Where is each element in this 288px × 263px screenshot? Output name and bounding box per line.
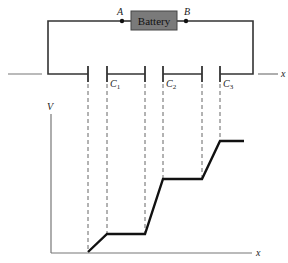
terminal-b-dot (184, 19, 188, 23)
terminal-b-label: B (184, 6, 190, 17)
guide-lines (88, 84, 220, 252)
potential-curve (88, 141, 244, 252)
c3-label: C3 (223, 78, 234, 91)
c2-label: C2 (166, 78, 177, 91)
left-wire (48, 21, 122, 74)
c1-label: C1 (110, 78, 121, 91)
y-axis-label: V (47, 101, 55, 112)
terminal-a-dot (120, 19, 124, 23)
battery-label: Battery (138, 15, 171, 27)
circuit-x-label: x (280, 68, 286, 79)
capacitor-potential-diagram: x Battery A B C1 C2 C3 V x (0, 0, 288, 263)
x-axis-label: x (255, 247, 261, 258)
graph: V x (47, 101, 261, 258)
terminal-a-label: A (116, 6, 124, 17)
circuit: x Battery A B C1 C2 C3 (8, 6, 286, 91)
